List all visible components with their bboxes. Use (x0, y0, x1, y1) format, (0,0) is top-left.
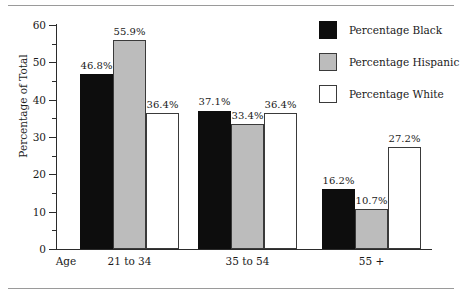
bar-35-to-54-percentage-hispanic[interactable] (231, 124, 264, 249)
legend-label: Percentage Hispanic (349, 56, 459, 68)
bar-value-label: 36.4% (139, 100, 186, 110)
legend-swatch-black-icon (319, 21, 337, 39)
bar-value-label: 16.2% (315, 176, 362, 186)
bar-value-label: 27.2% (381, 134, 428, 144)
y-tick-major (49, 25, 57, 26)
y-tick-major (49, 212, 57, 213)
figure-canvas: 0102030405060 Percentage of Total 46.8%5… (0, 0, 462, 298)
top-divider-rule (8, 5, 454, 6)
bar-value-label: 55.9% (106, 27, 153, 37)
bar-21-to-34-percentage-hispanic[interactable] (113, 40, 146, 249)
bar-21-to-34-percentage-white[interactable] (146, 113, 179, 249)
x-tick-label-21-to-34: 21 to 34 (85, 255, 175, 267)
x-axis-origin-label: Age (46, 255, 86, 267)
x-tick-label-55-+: 55 + (327, 255, 417, 267)
legend-swatch-white-icon (319, 85, 337, 103)
bar-21-to-34-percentage-black[interactable] (80, 74, 113, 249)
bar-35-to-54-percentage-black[interactable] (198, 111, 231, 250)
bar-value-label: 36.4% (257, 100, 304, 110)
x-tick-label-35-to-54: 35 to 54 (203, 255, 293, 267)
x-axis-spine (56, 249, 432, 250)
legend-label: Percentage Black (349, 24, 442, 36)
bar-55-+-percentage-hispanic[interactable] (355, 209, 388, 249)
bottom-divider-rule (8, 288, 454, 289)
y-axis-title: Percentage of Total (17, 26, 29, 186)
y-tick-major (49, 100, 57, 101)
y-tick-major (49, 249, 57, 250)
bar-35-to-54-percentage-white[interactable] (264, 113, 297, 249)
y-tick-label: 0 (2, 244, 46, 255)
legend-label: Percentage White (349, 88, 444, 100)
y-tick-major (49, 137, 57, 138)
y-tick-label: 10 (2, 207, 46, 218)
bar-55-+-percentage-white[interactable] (388, 147, 421, 249)
legend-swatch-gray-icon (319, 53, 337, 71)
y-tick-major (49, 62, 57, 63)
y-tick-major (49, 174, 57, 175)
bar-value-label: 37.1% (191, 97, 238, 107)
